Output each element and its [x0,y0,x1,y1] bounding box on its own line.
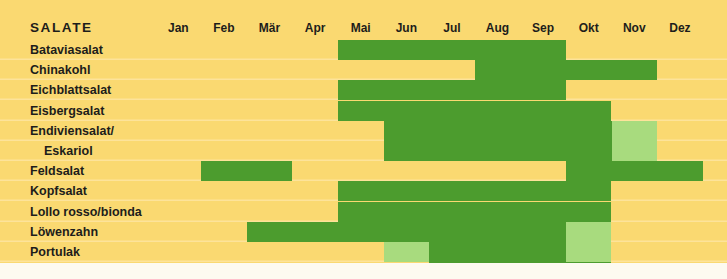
month-label-nov: Nov [612,21,658,35]
table-row[interactable]: Chinakohl [0,60,727,80]
chart-panel: SALATE JanFebMärAprMaiJunJulAugSepOktNov… [0,0,727,263]
month-label-apr: Apr [292,21,338,35]
row-label-9: Löwenzahn [30,225,98,239]
month-label-jul: Jul [429,21,475,35]
season-bar-full [338,40,566,60]
season-bar-full [338,202,612,222]
table-row[interactable]: Portulak [0,242,727,262]
table-row[interactable]: Löwenzahn [0,222,727,242]
season-bar-full [566,161,703,181]
month-label-jan: Jan [156,21,202,35]
row-label-10: Portulak [30,245,80,259]
season-bar-full [429,242,566,262]
season-bar-partial [612,121,658,141]
season-bar-full [384,121,612,141]
row-label-5: Eskariol [44,144,93,158]
table-row[interactable]: Endiviensalat/ [0,121,727,141]
table-row[interactable]: Feldsalat [0,161,727,181]
season-bar-partial [566,222,612,242]
row-label-2: Eichblattsalat [30,83,111,97]
row-background [0,242,727,262]
footer-strip [0,263,727,279]
season-bar-full [338,101,612,121]
row-label-3: Eisbergsalat [30,104,104,118]
month-label-dez: Dez [657,21,703,35]
season-bar-full [247,222,566,242]
month-label-jun: Jun [384,21,430,35]
table-row[interactable]: Eskariol [0,141,727,161]
table-row[interactable]: Eichblattsalat [0,80,727,100]
month-label-aug: Aug [475,21,521,35]
row-label-1: Chinakohl [30,63,90,77]
row-label-7: Kopfsalat [30,184,87,198]
table-row[interactable]: Lollo rosso/bionda [0,202,727,222]
month-label-mär: Mär [247,21,293,35]
month-label-okt: Okt [566,21,612,35]
season-bar-full [384,141,612,161]
seasonal-calendar-chart: SALATE JanFebMärAprMaiJunJulAugSepOktNov… [0,0,727,279]
month-label-feb: Feb [201,21,247,35]
season-bar-partial [612,141,658,161]
season-bar-full [201,161,292,181]
row-label-6: Feldsalat [30,164,84,178]
table-row[interactable]: Kopfsalat [0,181,727,201]
chart-rows: BataviasalatChinakohlEichblattsalatEisbe… [0,40,727,263]
table-row[interactable]: Bataviasalat [0,40,727,60]
month-label-sep: Sep [520,21,566,35]
row-label-8: Lollo rosso/bionda [30,205,142,219]
month-label-mai: Mai [338,21,384,35]
table-row[interactable]: Eisbergsalat [0,101,727,121]
chart-header: SALATE JanFebMärAprMaiJunJulAugSepOktNov… [0,18,727,40]
page-title: SALATE [30,20,93,35]
row-label-0: Bataviasalat [30,43,103,57]
season-bar-full [338,181,612,201]
season-bar-partial [384,242,430,262]
season-bar-full [475,60,657,80]
season-bar-partial [566,242,612,262]
season-bar-full [338,80,566,100]
row-label-4: Endiviensalat/ [30,124,114,138]
